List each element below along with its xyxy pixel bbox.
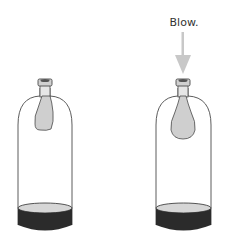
bottle-left-base-top bbox=[18, 203, 72, 213]
bottle-right-base-top bbox=[156, 203, 211, 213]
diagram-canvas bbox=[0, 0, 230, 241]
bottle-left-cap-opening bbox=[41, 79, 50, 82]
balloon-inflated bbox=[171, 96, 195, 139]
blow-annotation: Blow. bbox=[164, 16, 204, 29]
bottle-right bbox=[156, 79, 211, 231]
diagram: Blow. bbox=[0, 0, 230, 241]
bottle-left bbox=[18, 79, 72, 231]
down-arrow-icon bbox=[175, 32, 191, 74]
balloon-deflated bbox=[35, 96, 53, 130]
bottle-right-cap-opening bbox=[179, 79, 188, 82]
